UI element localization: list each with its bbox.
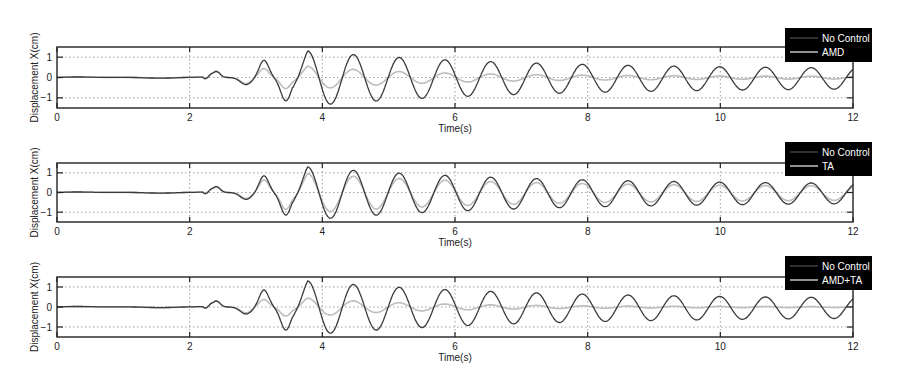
y-tick-label: 1 [46, 167, 52, 178]
y-axis-label: Displacement X(cm) [29, 147, 40, 237]
x-tick-label: 0 [54, 341, 60, 352]
x-axis-label: Time(s) [438, 123, 472, 134]
x-tick-label: 6 [452, 341, 458, 352]
x-tick-label: 8 [585, 341, 591, 352]
x-tick-label: 8 [585, 226, 591, 237]
legend: No ControlAMD [785, 28, 872, 62]
x-tick-label: 12 [847, 226, 859, 237]
y-tick-label: −1 [41, 92, 53, 103]
x-axis-label: Time(s) [438, 352, 472, 363]
subplot-2: 02468101210−1Time(s)Displacement X(cm)No… [29, 142, 872, 248]
y-tick-label: 0 [46, 72, 52, 83]
x-axis-label: Time(s) [438, 237, 472, 248]
x-tick-label: 12 [847, 112, 859, 123]
y-tick-label: 0 [46, 302, 52, 313]
x-tick-label: 6 [452, 112, 458, 123]
x-tick-label: 4 [320, 226, 326, 237]
figure: 02468101210−1Time(s)Displacement X(cm)No… [0, 0, 899, 378]
x-tick-label: 4 [320, 341, 326, 352]
legend: No ControlTA [785, 142, 872, 176]
x-tick-label: 2 [187, 341, 193, 352]
x-tick-label: 0 [54, 112, 60, 123]
y-axis-label: Displacement X(cm) [29, 262, 40, 352]
x-tick-label: 10 [715, 112, 727, 123]
y-axis-label: Displacement X(cm) [29, 32, 40, 122]
x-tick-label: 4 [320, 112, 326, 123]
x-tick-label: 10 [715, 341, 727, 352]
legend-label-no-control: No Control [822, 33, 870, 44]
x-tick-label: 10 [715, 226, 727, 237]
subplot-3: 02468101210−1Time(s)Displacement X(cm)No… [29, 256, 872, 363]
legend-label-no-control: No Control [822, 147, 870, 158]
y-tick-label: 1 [46, 282, 52, 293]
legend-label-no-control: No Control [822, 261, 870, 272]
x-tick-label: 6 [452, 226, 458, 237]
y-tick-label: 1 [46, 52, 52, 63]
subplot-1: 02468101210−1Time(s)Displacement X(cm)No… [29, 28, 872, 134]
y-tick-label: −1 [41, 322, 53, 333]
legend-label-controlled: AMD [822, 47, 844, 58]
x-tick-label: 8 [585, 112, 591, 123]
x-tick-label: 2 [187, 226, 193, 237]
y-tick-label: 0 [46, 187, 52, 198]
legend: No ControlAMD+TA [785, 256, 872, 290]
y-tick-label: −1 [41, 207, 53, 218]
x-tick-label: 0 [54, 226, 60, 237]
x-tick-label: 12 [847, 341, 859, 352]
legend-label-controlled: TA [822, 161, 834, 172]
x-tick-label: 2 [187, 112, 193, 123]
legend-label-controlled: AMD+TA [822, 275, 862, 286]
